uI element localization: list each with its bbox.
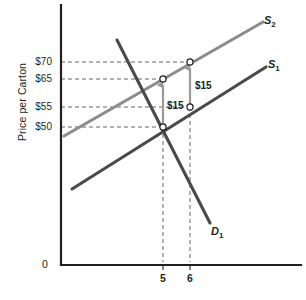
point-supply1-at-q6	[187, 104, 193, 110]
point-new-equilibrium	[187, 59, 193, 65]
chart-canvas	[0, 0, 306, 300]
data-point-markers	[160, 59, 193, 130]
curve-label-demand-1-sub: 1	[219, 231, 223, 240]
point-original-equilibrium	[160, 124, 166, 130]
point-supply2-at-q5	[160, 76, 166, 82]
guide-lines	[61, 62, 190, 262]
y-tick-label-70: $70	[10, 56, 52, 67]
x-tick-label-5: 5	[153, 272, 173, 284]
curve-label-supply-1: S1	[268, 58, 280, 73]
curve-label-demand-1: D1	[211, 225, 223, 240]
chart-figure: Price per Carton $70 $65 $55 $50 0 5 6 S…	[0, 0, 306, 300]
y-tick-label-65: $65	[10, 73, 52, 84]
curve-demand-1	[117, 40, 210, 223]
annotation-tax-wedge-left: $15	[167, 100, 184, 111]
axes	[61, 5, 301, 265]
annotation-tax-wedge-right: $15	[195, 80, 212, 91]
curve-label-supply-2: S2	[264, 14, 276, 29]
origin-label: 0	[42, 258, 48, 270]
x-tick-label-6: 6	[180, 272, 200, 284]
y-tick-label-50: $50	[10, 121, 52, 132]
curve-label-supply-1-sub: 1	[275, 64, 279, 73]
y-tick-label-55: $55	[10, 101, 52, 112]
curve-supply-1	[72, 67, 266, 189]
curve-label-demand-1-text: D	[211, 225, 219, 237]
curve-label-supply-2-sub: 2	[271, 20, 275, 29]
